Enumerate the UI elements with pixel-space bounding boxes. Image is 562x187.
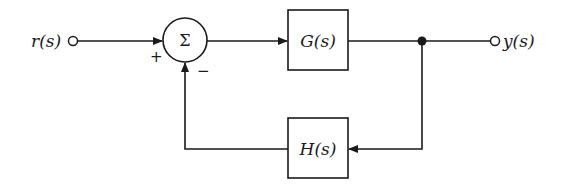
minus-sign: − bbox=[197, 62, 210, 80]
block-diagram: r(s) Σ + − G(s) y(s) H(s) bbox=[0, 0, 562, 187]
output-terminal-icon bbox=[491, 37, 500, 46]
feedback-block: H(s) bbox=[288, 118, 348, 178]
input-terminal-icon bbox=[69, 37, 78, 46]
forward-block-label: G(s) bbox=[300, 31, 336, 51]
plus-sign: + bbox=[150, 48, 163, 66]
forward-block: G(s) bbox=[288, 10, 348, 70]
input-label: r(s) bbox=[31, 31, 61, 51]
feedback-block-label: H(s) bbox=[299, 139, 337, 159]
summing-junction: Σ bbox=[163, 18, 207, 62]
feedback-path-line bbox=[349, 41, 422, 149]
sigma-symbol: Σ bbox=[179, 31, 190, 50]
output-label: y(s) bbox=[502, 31, 535, 51]
